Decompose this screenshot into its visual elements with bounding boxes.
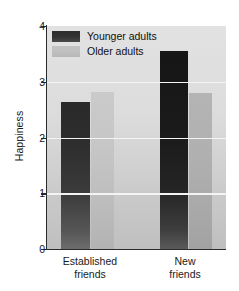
x-tick-label-new-friends: New friends [140, 255, 230, 280]
gridline-2 [47, 138, 226, 140]
x-tick-label-established-friends: Established friends [40, 255, 140, 280]
x-tick-label-established-line1: Established [40, 255, 140, 268]
bar-new-older [189, 93, 212, 249]
bar-new-younger [160, 51, 188, 249]
legend-label-younger-adults: Younger adults [87, 31, 157, 42]
y-tick-label-1: 1 [15, 187, 45, 199]
gridline-1 [47, 193, 226, 195]
y-tick-label-2: 2 [15, 132, 45, 144]
bar-established-older [91, 92, 114, 249]
y-tick-label-3: 3 [15, 76, 45, 88]
bar-established-younger [61, 102, 90, 249]
legend-swatch-younger-adults [52, 31, 80, 42]
chart-legend: Younger adults Older adults [52, 30, 157, 60]
legend-item-older-adults[interactable]: Older adults [52, 45, 157, 57]
legend-swatch-older-adults [52, 46, 80, 57]
bar-chart-figure: Happiness 4 3 2 1 0 Younger adults Older… [0, 0, 239, 291]
y-tick-label-0: 0 [15, 243, 45, 255]
x-tick-label-new-line1: New [140, 255, 230, 268]
gridline-3 [47, 82, 226, 84]
y-tick-label-4: 4 [15, 20, 45, 32]
legend-label-older-adults: Older adults [87, 46, 144, 57]
legend-item-younger-adults[interactable]: Younger adults [52, 30, 157, 42]
x-tick-label-established-line2: friends [40, 268, 140, 281]
x-tick-label-new-line2: friends [140, 268, 230, 281]
x-axis-line [46, 249, 226, 250]
